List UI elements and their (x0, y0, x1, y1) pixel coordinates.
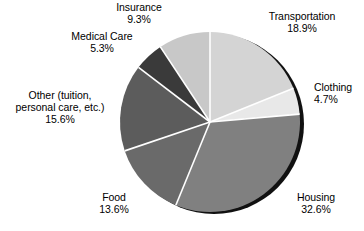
pie-label-other-name-line2: personal care, etc.) (6, 102, 114, 114)
pie-label-transportation-value: 18.9% (250, 23, 354, 35)
pie-label-clothing: Clothing 4.7% (314, 82, 364, 106)
pie-label-housing-value: 32.6% (281, 204, 351, 216)
pie-label-clothing-value: 4.7% (314, 94, 364, 106)
pie-label-other: Other (tuition, personal care, etc.) 15.… (6, 90, 114, 125)
pie-label-food: Food 13.6% (84, 192, 144, 216)
pie-label-medical-care: Medical Care 5.3% (58, 31, 146, 55)
pie-label-transportation: Transportation 18.9% (250, 11, 354, 35)
pie-label-insurance: Insurance 9.3% (96, 2, 182, 26)
pie-label-medical-care-value: 5.3% (58, 43, 146, 55)
pie-label-housing: Housing 32.6% (281, 192, 351, 216)
pie-label-insurance-value: 9.3% (96, 14, 182, 26)
pie-label-food-value: 13.6% (84, 204, 144, 216)
pie-label-other-value: 15.6% (6, 114, 114, 126)
pie-chart: Insurance 9.3% Transportation 18.9% Medi… (0, 0, 364, 231)
